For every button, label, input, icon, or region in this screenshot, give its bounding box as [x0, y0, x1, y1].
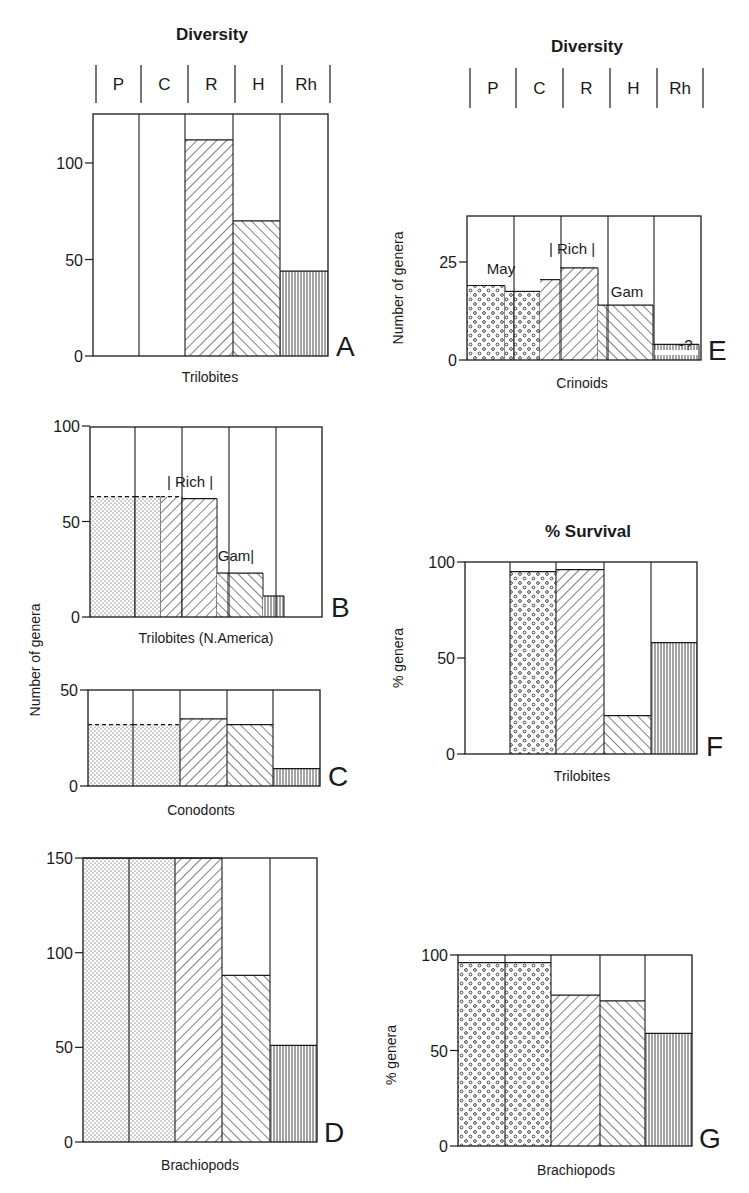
bar-Rh: [280, 271, 328, 356]
bar-segment: [161, 497, 182, 617]
annotation: | Rich |: [167, 473, 213, 490]
panel-B: 050100| Rich |Gam|Trilobites (N.America)…: [53, 418, 349, 646]
y-tick-label: 50: [55, 1039, 73, 1056]
period-label: R: [205, 75, 217, 94]
y-tick-label: 0: [71, 609, 80, 626]
annotation: Gam: [611, 283, 644, 300]
period-label: C: [533, 79, 545, 98]
bar-segment: [182, 499, 217, 617]
bar-segment: [263, 596, 284, 617]
bar-H: [604, 716, 651, 754]
x-axis-label: Crinoids: [556, 375, 607, 391]
y-tick-label: 50: [430, 1043, 448, 1060]
y-tick-label: 0: [64, 1134, 73, 1151]
bar-R: [175, 858, 222, 1142]
header-left: DiversityPCRHRh: [96, 25, 330, 103]
period-label: Rh: [669, 79, 691, 98]
bar-Rh: [651, 643, 697, 754]
panel-letter: C: [328, 761, 348, 792]
bar-R: [185, 140, 233, 356]
y-tick-label: 100: [56, 155, 83, 172]
annotation: Gam|: [218, 547, 254, 564]
bar-R: [556, 570, 604, 754]
bar-segment: [607, 305, 653, 360]
x-axis-label: Trilobites: [554, 768, 610, 784]
chart-panels: 050100TrilobitesA050100| Rich |Gam|Trilo…: [46, 114, 726, 1178]
y-tick-label: 0: [448, 352, 457, 369]
y-tick-label: 50: [62, 514, 80, 531]
y-tick-label: 150: [46, 850, 73, 867]
survival-title: % Survival: [545, 522, 631, 541]
y-tick-label: 0: [74, 348, 83, 365]
panel-F: 050100TrilobitesF% genera: [390, 554, 723, 784]
y-tick-label: 0: [439, 1138, 448, 1155]
panel-G: 050100BrachiopodsG% genera: [383, 947, 721, 1178]
bar-R: [551, 995, 600, 1146]
y-tick-label: 0: [69, 778, 78, 795]
shared-ylabel: Number of genera: [27, 603, 43, 716]
bar-H: [222, 975, 270, 1142]
y-tick-label: 50: [437, 650, 455, 667]
bar-segment: [90, 497, 135, 617]
y-tick-label: 100: [421, 947, 448, 964]
annotation: ~?: [675, 336, 692, 353]
bar-Rh: [273, 769, 320, 786]
bar-C: [510, 572, 556, 754]
figure-canvas: DiversityPCRHRhDiversityPCRHRh 050100Tri…: [0, 0, 749, 1193]
bar-P: [458, 963, 505, 1146]
y-axis-label: % genera: [390, 628, 406, 688]
x-axis-label: Trilobites: [182, 369, 238, 385]
panel-E: 025May| Rich |Gam~?CrinoidsENumber of ge…: [390, 216, 727, 391]
bar-P: [83, 858, 129, 1142]
bar-R: [180, 719, 227, 786]
annotation: | Rich |: [549, 240, 595, 257]
panel-letter: G: [699, 1123, 721, 1154]
bar-segment: [135, 497, 161, 617]
period-label: C: [158, 75, 170, 94]
period-label: P: [113, 75, 124, 94]
bar-H: [227, 725, 273, 786]
bar-segment: [540, 280, 560, 360]
period-label: P: [487, 79, 498, 98]
y-tick-label: 50: [60, 682, 78, 699]
y-tick-label: 50: [65, 252, 83, 269]
annotation: May: [487, 260, 516, 277]
bar-C: [505, 963, 551, 1146]
bar-P: [88, 725, 133, 786]
period-label: R: [580, 79, 592, 98]
y-axis-label: Number of genera: [390, 231, 406, 344]
period-label: H: [252, 75, 264, 94]
period-headers: DiversityPCRHRhDiversityPCRHRh: [96, 25, 703, 108]
header-right: DiversityPCRHRh: [470, 37, 703, 108]
y-tick-label: 25: [439, 254, 457, 271]
y-tick-label: 100: [428, 554, 455, 571]
bar-Rh: [645, 1033, 692, 1146]
x-axis-label: Conodonts: [167, 802, 235, 818]
panel-letter: B: [331, 592, 350, 623]
header-title: Diversity: [551, 37, 623, 56]
header-title: Diversity: [176, 25, 248, 44]
bar-segment: [228, 573, 263, 617]
bar-C: [129, 858, 175, 1142]
bar-segment: [217, 573, 228, 617]
x-axis-label: Trilobites (N.America): [139, 630, 274, 646]
y-axis-label: % genera: [383, 1025, 399, 1085]
panel-A: 050100TrilobitesA: [56, 114, 355, 385]
x-axis-label: Brachiopods: [161, 1157, 239, 1173]
bar-Rh: [270, 1045, 317, 1142]
bar-segment: [505, 291, 514, 360]
panel-letter: E: [708, 335, 727, 366]
panel-D: 050100150BrachiopodsD: [46, 850, 344, 1173]
y-tick-label: 100: [46, 945, 73, 962]
panel-letter: D: [324, 1117, 344, 1148]
bar-H: [600, 1001, 645, 1146]
period-label: Rh: [295, 75, 317, 94]
bar-H: [233, 221, 280, 356]
panel-letter: F: [706, 731, 723, 762]
bar-segment: [467, 286, 505, 360]
bar-segment: [514, 291, 540, 360]
bar-segment: [560, 268, 598, 360]
bar-segment: [598, 305, 607, 360]
panel-C: 050ConodontsC: [60, 682, 348, 818]
x-axis-label: Brachiopods: [537, 1162, 615, 1178]
